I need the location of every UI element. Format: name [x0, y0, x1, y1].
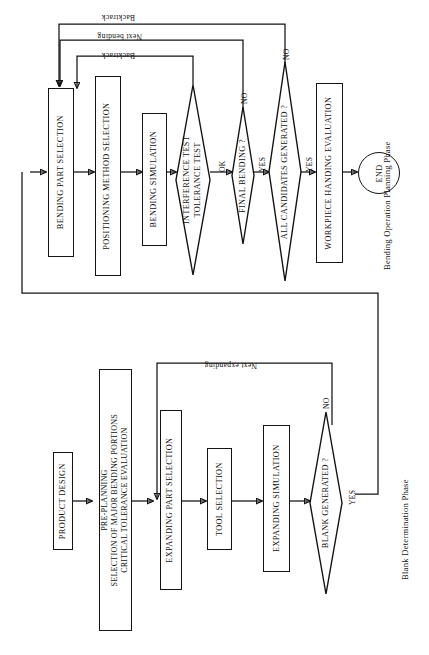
edge-label-final-bending-yes: YES: [258, 157, 267, 172]
caption-bending-operation-planning-phase: Bending Operation Planning Phase: [382, 141, 392, 270]
node-tool-selection[interactable]: TOOL SELECTION: [207, 448, 232, 550]
terminator-end[interactable]: END: [358, 152, 400, 194]
node-label: BENDING SIMULATION: [149, 131, 159, 227]
decision-label: INTERFERENCE TEST TOLERANCE TEST: [182, 136, 204, 224]
wire-next-bending-final-to-bending-part: [60, 40, 243, 108]
edge-label-final-bending-no: NO: [240, 92, 249, 104]
edge-label-ok: OK: [218, 160, 227, 172]
decision-all-candidates-generated[interactable]: ALL CANDIDATES GENERATED ?: [269, 62, 301, 281]
decision-label-line2: TOLERANCE TEST: [193, 142, 202, 217]
decision-final-bending[interactable]: FINAL BENDING ?: [232, 107, 254, 244]
node-bending-simulation[interactable]: BENDING SIMULATION: [142, 113, 167, 246]
edge-label-next-bending: Next bending: [97, 32, 142, 41]
decision-blank-generated[interactable]: BLANK GENERATED ?: [310, 412, 342, 594]
edge-label-next-expanding: Next expanding: [205, 361, 258, 370]
node-label-line3: CRITICAL TOLERANCE EVALUATION: [121, 427, 130, 572]
edge-label-all-candidates-yes: YES: [305, 157, 314, 172]
node-label: BENDING PART SELECTION: [56, 115, 66, 229]
node-label-line1: PRE-PLANNING: [100, 469, 109, 530]
node-label: EXPANDING SIMULATION: [271, 445, 281, 552]
node-positioning-method-selection[interactable]: POSITIONING METHOD SELECTION: [95, 76, 121, 276]
edge-label-all-candidates-no: NO: [282, 48, 291, 60]
edge-label-backtrack-lower: Backtrack: [102, 51, 135, 60]
node-pre-planning[interactable]: PRE-PLANNING SELECTION OF MAJOR BENDING …: [99, 369, 132, 631]
node-label: PRODUCT DESIGN: [58, 463, 68, 539]
edge-label-blank-generated-yes: YES: [348, 490, 357, 505]
node-label: EXPANDING PART SELECTION: [166, 437, 176, 562]
decision-label: BLANK GENERATED ?: [321, 458, 332, 548]
node-label: PRE-PLANNING SELECTION OF MAJOR BENDING …: [100, 414, 130, 586]
flowchart-canvas: BENDING PART SELECTION POSITIONING METHO…: [0, 0, 429, 655]
node-bending-part-selection[interactable]: BENDING PART SELECTION: [48, 88, 74, 257]
decision-label: FINAL BENDING ?: [238, 139, 249, 213]
node-expanding-part-selection[interactable]: EXPANDING PART SELECTION: [160, 410, 182, 590]
wire-next-expanding-feedback: [157, 363, 332, 499]
caption-blank-determination-phase: Blank Determination Phase: [400, 479, 410, 580]
node-product-design[interactable]: PRODUCT DESIGN: [53, 452, 73, 550]
node-label: TOOL SELECTION: [214, 462, 224, 536]
node-expanding-simulation[interactable]: EXPANDING SIMULATION: [263, 425, 290, 572]
decision-label-line1: INTERFERENCE TEST: [182, 136, 191, 224]
node-label: POSITIONING METHOD SELECTION: [103, 102, 113, 249]
node-label-line2: SELECTION OF MAJOR BENDING PORTIONS: [110, 414, 119, 586]
decision-label: ALL CANDIDATES GENERATED ?: [280, 104, 291, 238]
decision-interference-tolerance-test[interactable]: INTERFERENCE TEST TOLERANCE TEST: [176, 85, 210, 275]
edge-label-blank-generated-no: NO: [322, 397, 331, 409]
node-workpiece-handing-evaluation[interactable]: WORKPIECE HANDING EVALUATION: [316, 83, 343, 263]
edge-label-backtrack-upper: Backtrack: [102, 13, 135, 22]
node-label: WORKPIECE HANDING EVALUATION: [324, 96, 334, 249]
wire-backtrack-all-candidates-to-bending-part: [59, 24, 285, 86]
